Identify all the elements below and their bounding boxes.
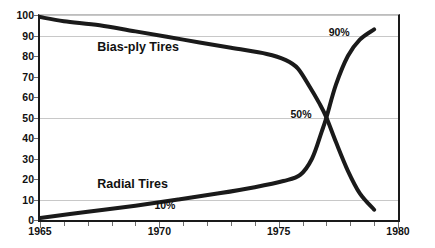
y-tick-label-90: 90 <box>4 31 34 42</box>
x-tick-minor-1967 <box>88 222 89 226</box>
series-line-bias-ply-tires <box>40 17 374 210</box>
y-tick-60 <box>34 97 38 98</box>
annotation-50pct: 50% <box>290 109 311 120</box>
y-tick-label-20: 20 <box>4 174 34 185</box>
x-tick-minor-1974 <box>255 222 256 226</box>
y-tick-label-40: 40 <box>4 133 34 144</box>
y-tick-label-0: 0 <box>4 215 34 226</box>
plot-area <box>38 14 400 222</box>
series-label-bias-ply-tires: Bias-ply Tires <box>97 41 179 54</box>
tire-market-share-chart: 0102030405060708090100 19651970197519809… <box>0 0 435 248</box>
y-tick-30 <box>34 159 38 160</box>
x-tick-minor-1977 <box>326 222 327 226</box>
y-tick-80 <box>34 56 38 57</box>
y-tick-label-100: 100 <box>4 10 34 21</box>
y-tick-0 <box>34 220 38 221</box>
y-tick-50 <box>34 118 38 119</box>
y-tick-label-50: 50 <box>4 113 34 124</box>
x-tick-minor-1973 <box>231 222 232 226</box>
x-tick-minor-1969 <box>135 222 136 226</box>
y-tick-10 <box>34 200 38 201</box>
y-axis: 0102030405060708090100 <box>0 0 34 248</box>
y-tick-100 <box>34 15 38 16</box>
x-tick-minor-1968 <box>112 222 113 226</box>
y-tick-label-60: 60 <box>4 92 34 103</box>
x-tick-label-1965: 1965 <box>28 226 51 237</box>
annotation-90pct: 90% <box>329 27 350 38</box>
x-tick-minor-1966 <box>64 222 65 226</box>
x-tick-minor-1972 <box>207 222 208 226</box>
x-tick-label-1980: 1980 <box>386 226 409 237</box>
y-tick-label-10: 10 <box>4 195 34 206</box>
x-tick-minor-1978 <box>350 222 351 226</box>
y-tick-70 <box>34 77 38 78</box>
y-tick-label-70: 70 <box>4 72 34 83</box>
y-tick-20 <box>34 179 38 180</box>
annotation-10pct: 10% <box>154 200 175 211</box>
x-tick-minor-1979 <box>374 222 375 226</box>
x-tick-label-1975: 1975 <box>267 226 290 237</box>
series-line-radial-tires <box>40 29 374 218</box>
series-curves <box>40 15 400 222</box>
x-tick-minor-1971 <box>183 222 184 226</box>
y-tick-label-30: 30 <box>4 154 34 165</box>
series-label-radial-tires: Radial Tires <box>97 178 168 191</box>
y-tick-label-80: 80 <box>4 51 34 62</box>
x-tick-label-1970: 1970 <box>148 226 171 237</box>
y-tick-90 <box>34 36 38 37</box>
y-tick-40 <box>34 138 38 139</box>
x-tick-minor-1976 <box>303 222 304 226</box>
